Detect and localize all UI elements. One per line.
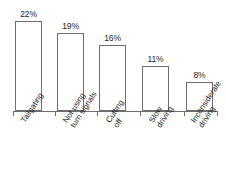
bar-value-label: 8%: [186, 71, 213, 80]
bar-value-label: 11%: [142, 55, 169, 64]
x-axis-tick: [13, 111, 14, 116]
bar-chart: 22% 19% 16% 11% 8% Tailgating Not using …: [0, 0, 226, 189]
bar-value-label: 19%: [57, 22, 84, 31]
bar-value-label: 22%: [15, 10, 42, 19]
x-axis-tick: [140, 111, 141, 116]
plot-area: 22% 19% 16% 11% 8% Tailgating Not using …: [0, 0, 226, 189]
x-axis-tick: [97, 111, 98, 116]
bar-value-label: 16%: [99, 34, 126, 43]
x-axis-tick: [217, 111, 218, 116]
x-axis-tick: [184, 111, 185, 116]
x-axis-tick: [55, 111, 56, 116]
